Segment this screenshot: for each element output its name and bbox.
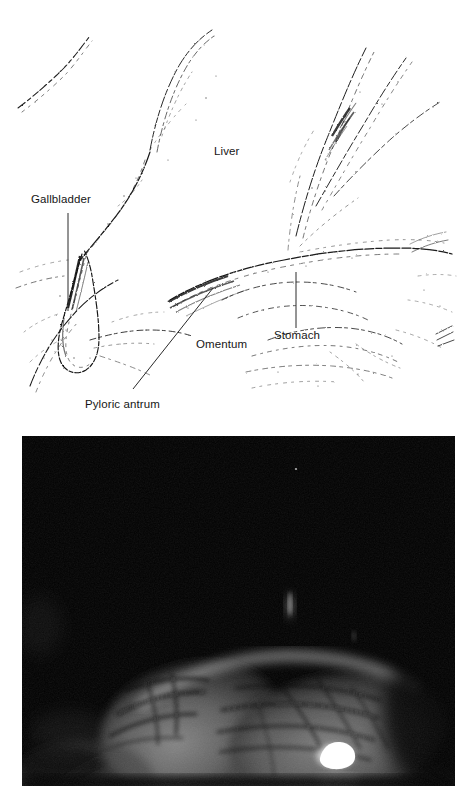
anatomical-line-drawing-panel: Liver Gallbladder Omentum Stomach Pylori… [0,0,468,428]
label-omentum: Omentum [196,339,247,351]
label-liver: Liver [214,146,239,158]
line-drawing-svg [0,0,468,428]
photograph-svg [22,436,455,786]
laparoscopic-photograph-panel [22,436,455,786]
label-gallbladder: Gallbladder [31,194,91,206]
photo-grain-overlay [22,436,455,786]
label-pyloric-antrum: Pyloric antrum [85,399,160,411]
figure-root: Liver Gallbladder Omentum Stomach Pylori… [0,0,468,788]
label-stomach: Stomach [274,330,320,342]
